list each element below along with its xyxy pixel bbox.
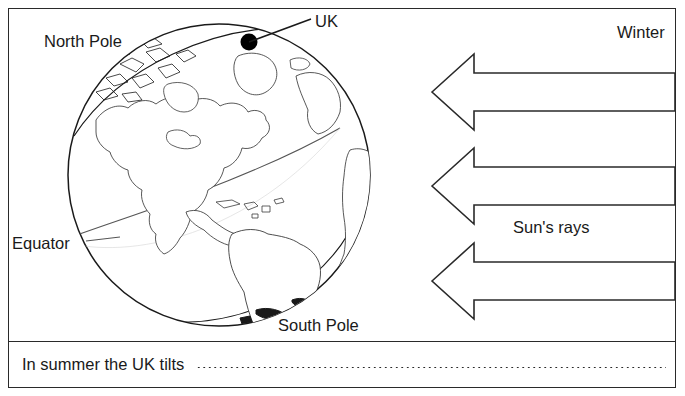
worksheet-page: North Pole UK Equator South Pole Winter … (0, 0, 685, 396)
africa-west-edge-outline (337, 149, 384, 285)
label-uk: UK (315, 13, 338, 30)
label-south-pole: South Pole (278, 317, 359, 334)
answer-row: In summer the UK tilts (8, 341, 676, 388)
sun-ray-arrow-2 (432, 148, 675, 224)
sun-ray-arrow-1 (432, 54, 675, 130)
diagram-canvas (0, 0, 685, 396)
iceland-outline (290, 58, 310, 70)
suns-rays-arrows (432, 54, 675, 319)
label-suns-rays: Sun's rays (513, 219, 590, 236)
label-equator: Equator (12, 235, 70, 252)
label-winter: Winter (617, 24, 665, 41)
label-north-pole: North Pole (44, 33, 122, 50)
sun-ray-arrow-3 (432, 243, 675, 319)
question-prompt: In summer the UK tilts (22, 355, 184, 374)
answer-dotted-line[interactable] (196, 366, 666, 369)
